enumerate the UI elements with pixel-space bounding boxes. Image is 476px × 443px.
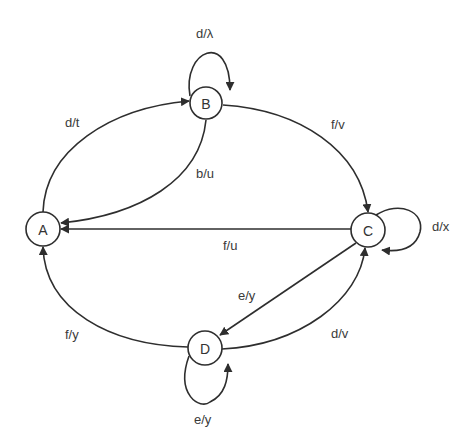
edge-label-b-self-loop: d/λ	[196, 26, 214, 41]
node-a-label: A	[38, 222, 48, 238]
edge-label-d-to-a: f/y	[65, 327, 79, 342]
edge-b-to-c	[223, 105, 368, 212]
node-d-label: D	[200, 341, 210, 357]
edge-label-c-self-loop: d/x	[432, 219, 450, 234]
state-diagram: A B C D d/t d/λ b/u f/v d/x f/u e/y d/v …	[0, 0, 476, 443]
edge-label-b-to-c: f/v	[331, 117, 345, 132]
node-c: C	[351, 213, 385, 247]
edge-label-c-to-d: e/y	[238, 288, 256, 303]
edge-label-d-to-c: d/v	[331, 326, 349, 341]
edge-label-b-to-a: b/u	[196, 166, 214, 181]
node-a: A	[26, 212, 60, 246]
edge-b-to-a	[61, 120, 206, 223]
node-b: B	[190, 87, 222, 119]
node-b-label: B	[201, 96, 210, 112]
node-c-label: C	[363, 223, 373, 239]
edge-label-c-to-a: f/u	[223, 238, 237, 253]
edge-label-d-self-loop: e/y	[194, 412, 212, 427]
edge-label-a-to-b: d/t	[65, 115, 80, 130]
node-d: D	[188, 331, 222, 365]
